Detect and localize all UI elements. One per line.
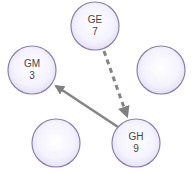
graph-diagram [0,0,195,178]
node-gm[interactable] [8,46,56,94]
node-ge[interactable] [71,2,119,50]
node-gh[interactable] [112,119,160,167]
edge-ge-to-gh-dashed [104,51,127,116]
node-empty-bottom-left[interactable] [32,119,80,167]
node-empty-right[interactable] [137,46,185,94]
